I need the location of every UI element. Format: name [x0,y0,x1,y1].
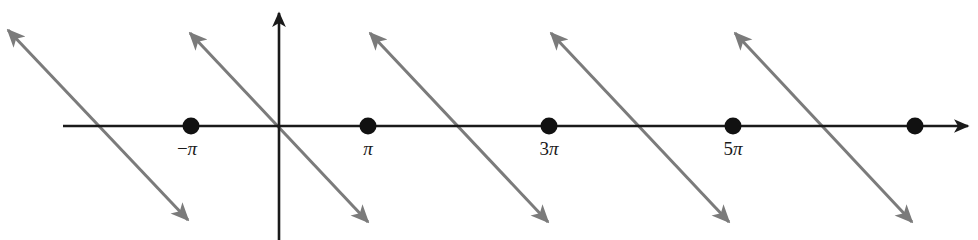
pi-glyph: π [363,138,373,159]
graph-plot [0,0,978,240]
minus-sign: − [177,138,188,159]
x-tick-label-pi: π [363,139,373,158]
x-tick-label-3pi: 3π [539,139,558,158]
coefficient: 3 [539,138,549,159]
pi-glyph: π [733,138,743,159]
pi-glyph: π [549,138,559,159]
figure-canvas: −π π 3π 5π [0,0,978,240]
pi-glyph: π [188,138,198,159]
x-tick-label-minus-pi: −π [177,139,197,158]
data-point-5pi [725,118,742,135]
sawtooth-segment-4 [551,33,729,222]
data-point-pi [360,118,377,135]
data-point-3pi [541,118,558,135]
sawtooth-segment-5 [735,33,912,222]
data-point-7pi [907,118,924,135]
x-tick-label-5pi: 5π [723,139,742,158]
sawtooth-segment-3 [370,33,548,222]
data-point-minus-pi [183,118,200,135]
coefficient: 5 [723,138,733,159]
